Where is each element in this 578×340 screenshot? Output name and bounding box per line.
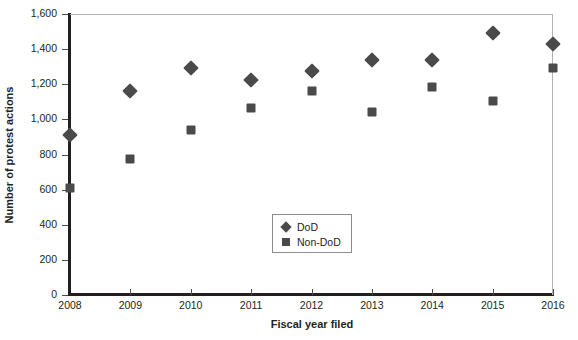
y-tick-label: 800 xyxy=(0,149,57,160)
data-point-dod-2013 xyxy=(364,53,380,69)
y-tick-label: 1,600 xyxy=(0,8,57,19)
data-point-non-dod-2009 xyxy=(126,155,135,164)
x-tick-mark xyxy=(312,289,313,295)
legend-label-non-dod: Non-DoD xyxy=(297,236,341,248)
y-tick-label: 1,400 xyxy=(0,43,57,54)
square-marker-icon xyxy=(280,236,292,248)
data-point-dod-2011 xyxy=(243,72,259,88)
x-tick-label: 2008 xyxy=(47,299,93,311)
data-point-dod-2015 xyxy=(485,25,501,41)
y-tick-label: 1,200 xyxy=(0,78,57,89)
chart-legend: DoD Non-DoD xyxy=(272,214,352,253)
data-point-dod-2014 xyxy=(424,52,440,68)
x-tick-label: 2011 xyxy=(228,299,274,311)
y-tick-label: 400 xyxy=(0,219,57,230)
plot-frame-top xyxy=(70,14,553,15)
x-tick-mark xyxy=(493,289,494,295)
data-point-non-dod-2013 xyxy=(367,107,376,116)
data-point-dod-2016 xyxy=(545,36,561,52)
x-tick-label: 2016 xyxy=(530,299,576,311)
x-tick-label: 2013 xyxy=(349,299,395,311)
data-point-non-dod-2014 xyxy=(428,83,437,92)
legend-item-dod[interactable]: DoD xyxy=(280,220,318,234)
x-tick-label: 2009 xyxy=(107,299,153,311)
data-point-dod-2009 xyxy=(123,83,139,99)
data-point-non-dod-2015 xyxy=(488,96,497,105)
data-point-dod-2010 xyxy=(183,60,199,76)
x-tick-label: 2010 xyxy=(168,299,214,311)
scatter-chart: Number of protest actions 02004006008001… xyxy=(0,0,578,340)
data-point-non-dod-2012 xyxy=(307,87,316,96)
data-point-non-dod-2016 xyxy=(549,64,558,73)
data-point-dod-2008 xyxy=(62,127,78,143)
plot-frame-right xyxy=(552,14,553,295)
x-tick-mark xyxy=(553,289,554,295)
x-tick-label: 2015 xyxy=(470,299,516,311)
x-tick-label: 2014 xyxy=(409,299,455,311)
x-tick-mark xyxy=(191,289,192,295)
x-tick-label: 2012 xyxy=(289,299,335,311)
x-axis-title: Fiscal year filed xyxy=(70,318,554,330)
x-tick-mark xyxy=(130,289,131,295)
y-tick-label: 1,000 xyxy=(0,113,57,124)
data-point-dod-2012 xyxy=(304,63,320,79)
x-tick-mark xyxy=(251,289,252,295)
y-tick-label: 200 xyxy=(0,254,57,265)
y-tick-label: 600 xyxy=(0,184,57,195)
data-point-non-dod-2011 xyxy=(247,104,256,113)
diamond-marker-icon xyxy=(280,221,292,233)
legend-item-non-dod[interactable]: Non-DoD xyxy=(280,235,341,249)
data-point-non-dod-2010 xyxy=(186,126,195,135)
x-tick-mark xyxy=(432,289,433,295)
x-tick-mark xyxy=(372,289,373,295)
data-point-non-dod-2008 xyxy=(66,183,75,192)
legend-label-dod: DoD xyxy=(297,221,318,233)
